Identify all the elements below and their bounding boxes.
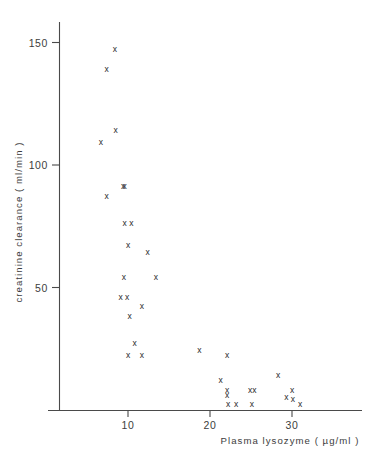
data-point-marker: x <box>252 385 257 395</box>
x-axis-title: Plasma lysozyme ( µg/ml ) <box>221 435 360 446</box>
y-axis-title: creatinine clearance ( ml/min ) <box>13 141 24 302</box>
data-point-marker: x <box>226 399 231 409</box>
x-tick-label: 10 <box>122 419 135 431</box>
scatter-plot-figure: 50100150 102030 creatinine clearance ( m… <box>0 0 384 457</box>
data-point-marker: x <box>99 137 104 147</box>
data-point-marker: x <box>129 218 134 228</box>
data-point-marker: x <box>105 191 110 201</box>
data-point-marker: x <box>250 399 255 409</box>
y-tick-labels: 50100150 <box>29 37 48 294</box>
y-axis-group: 50100150 <box>29 22 60 410</box>
data-point-marker: x <box>140 350 145 360</box>
data-point-marker: x <box>197 345 202 355</box>
y-tick-marks <box>52 43 60 288</box>
data-point-marker: x <box>123 181 128 191</box>
data-point-marker: x <box>132 338 137 348</box>
y-tick-label: 100 <box>29 159 48 171</box>
data-point-marker: x <box>114 125 119 135</box>
data-point-marker: x <box>118 292 123 302</box>
x-tick-label: 30 <box>286 419 299 431</box>
data-point-marker: x <box>284 392 289 402</box>
x-tick-labels: 102030 <box>122 419 299 431</box>
data-point-marker: x <box>128 311 133 321</box>
data-point-marker: x <box>154 272 159 282</box>
data-point-marker: x <box>113 44 118 54</box>
data-point-marker: x <box>298 399 303 409</box>
x-tick-label: 20 <box>204 419 217 431</box>
data-point-marker: x <box>123 218 128 228</box>
data-point-marker: x <box>291 394 296 404</box>
data-point-marker: x <box>146 247 151 257</box>
data-point-marker: x <box>126 350 131 360</box>
plot-canvas: 50100150 102030 creatinine clearance ( m… <box>0 0 384 457</box>
y-tick-label: 150 <box>29 37 48 49</box>
data-point-marker: x <box>290 385 295 395</box>
data-point-marker: x <box>276 370 281 380</box>
data-point-marker: x <box>122 272 127 282</box>
x-axis-group: 102030 <box>48 410 362 431</box>
data-point-marker: x <box>125 292 130 302</box>
data-point-marker: x <box>225 390 230 400</box>
data-point-marker: x <box>234 399 239 409</box>
data-points-layer: xxxxxxxxxxxxxxxxxxxxxxxxxxxxxxxxxxx <box>99 44 303 409</box>
data-point-marker: x <box>105 64 110 74</box>
data-point-marker: x <box>126 240 131 250</box>
data-point-marker: x <box>219 375 224 385</box>
y-tick-label: 50 <box>35 282 48 294</box>
data-point-marker: x <box>140 301 145 311</box>
data-point-marker: x <box>225 350 230 360</box>
